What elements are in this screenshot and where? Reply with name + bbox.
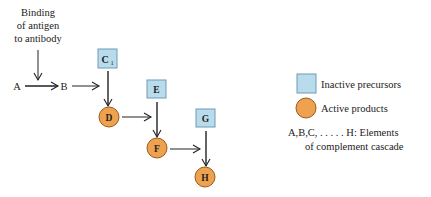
legend-active-label: Active products (321, 103, 388, 114)
legend-note-line-1: A,B,C, . . . . . H: Elements (288, 127, 399, 138)
trigger-label-line-1: Binding (21, 7, 56, 18)
legend-inactive-label: Inactive precursors (321, 79, 401, 90)
trigger-label-line-3: to antibody (14, 33, 62, 44)
node-b: B (60, 81, 67, 92)
legend-inactive-swatch (297, 74, 316, 93)
node-c1-label: C (101, 54, 108, 65)
node-c1-subscript: 1 (110, 59, 113, 66)
complement-cascade-diagram: Binding of antigen to antibody A B C 1 D… (0, 0, 431, 197)
legend-active-swatch (296, 98, 316, 118)
node-e-label: E (153, 85, 159, 95)
node-f-label: F (154, 144, 160, 154)
trigger-label-line-2: of antigen (17, 20, 60, 31)
node-a: A (13, 81, 21, 92)
legend-note-line-2: of complement cascade (305, 141, 404, 152)
node-g-label: G (202, 114, 210, 124)
node-h-label: H (201, 173, 209, 183)
node-d-label: D (106, 113, 113, 123)
